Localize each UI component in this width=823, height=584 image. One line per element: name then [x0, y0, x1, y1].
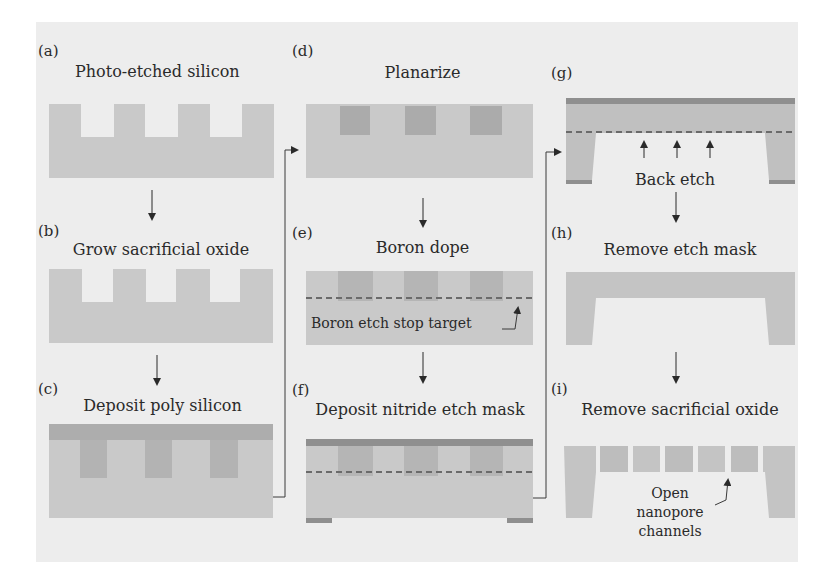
- panel-f-cross-section: [306, 439, 533, 523]
- panel-f-label: (f): [292, 381, 309, 399]
- open-nanopore-annotation: Open nanopore channels: [620, 484, 720, 541]
- panel-e-title: Boron dope: [360, 238, 485, 257]
- panel-c-label: (c): [38, 380, 58, 398]
- panel-h-cross-section: [566, 272, 795, 345]
- panel-i-label: (i): [551, 380, 568, 398]
- panel-e-label: (e): [292, 224, 313, 242]
- panel-a-title: Photo-etched silicon: [75, 62, 235, 81]
- panel-i-title: Remove sacrificial oxide: [570, 400, 790, 419]
- panel-f-title: Deposit nitride etch mask: [305, 400, 535, 419]
- annotation-line-2: nanopore: [620, 503, 720, 522]
- boron-etch-stop-annotation: Boron etch stop target: [311, 314, 472, 333]
- panel-c-cross-section: [49, 424, 273, 518]
- panel-h-label: (h): [551, 224, 572, 242]
- panel-a-label: (a): [38, 42, 59, 60]
- panel-b-title: Grow sacrificial oxide: [66, 240, 256, 259]
- annotation-line-3: channels: [620, 522, 720, 541]
- panel-g-title: Back etch: [615, 170, 735, 189]
- panel-b-cross-section: [49, 269, 273, 343]
- panel-d-title: Planarize: [360, 63, 485, 82]
- panel-h-title: Remove etch mask: [590, 240, 770, 259]
- panel-e-cross-section: [306, 271, 533, 345]
- panel-c-title: Deposit poly silicon: [75, 396, 250, 415]
- panel-a-cross-section: [49, 104, 274, 178]
- panel-d-cross-section: [306, 104, 533, 178]
- annotation-line-1: Open: [620, 484, 720, 503]
- panel-b-label: (b): [38, 222, 59, 240]
- panel-g-label: (g): [551, 64, 572, 82]
- panel-d-label: (d): [292, 42, 313, 60]
